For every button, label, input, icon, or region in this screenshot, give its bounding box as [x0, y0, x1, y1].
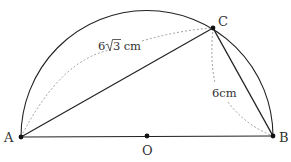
- point-O: [145, 134, 150, 139]
- measure-label-BC: 6cm: [212, 86, 237, 100]
- measure-AC-coef: 6: [98, 39, 105, 53]
- semicircle-arc: [21, 10, 273, 137]
- measure-AC-unit: cm: [120, 39, 141, 53]
- point-A: [19, 135, 24, 140]
- label-A: A: [3, 130, 14, 145]
- measure-label-AC: 6 3 cm: [98, 39, 141, 53]
- label-O: O: [142, 143, 153, 158]
- point-C: [211, 26, 216, 31]
- point-B: [271, 134, 276, 139]
- label-C: C: [218, 14, 228, 29]
- label-B: B: [279, 130, 289, 145]
- semicircle-triangle-diagram: A B O C 6 3 cm 6cm: [0, 0, 291, 162]
- segment-BC: [213, 28, 273, 136]
